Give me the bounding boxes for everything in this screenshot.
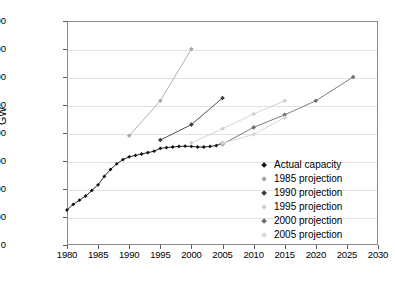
legend-item-3[interactable]: 1990 projection <box>258 186 342 199</box>
y-tick-label: 600 <box>0 72 6 82</box>
gridline <box>68 134 377 135</box>
legend-item-5[interactable]: 2000 projection <box>258 214 342 227</box>
x-tick-mark <box>254 245 255 249</box>
y-tick-mark <box>63 217 67 218</box>
x-tick-mark <box>378 245 379 249</box>
capacity-projection-chart: GW 0100200300400500600700800 19801985199… <box>0 0 395 283</box>
x-tick-mark <box>285 245 286 249</box>
y-tick-mark <box>63 189 67 190</box>
y-tick-mark <box>63 77 67 78</box>
x-tick-mark <box>223 245 224 249</box>
legend-item-label: Actual capacity <box>274 159 341 170</box>
diamond-marker-icon <box>258 158 274 171</box>
diamond-marker-icon <box>258 228 274 241</box>
y-tick-label: 700 <box>0 44 6 54</box>
legend: Actual capacity1985 projection1990 proje… <box>258 158 342 241</box>
gridline <box>68 50 377 51</box>
y-tick-label: 200 <box>0 184 6 194</box>
y-tick-label: 400 <box>0 128 6 138</box>
x-tick-mark <box>67 245 68 249</box>
y-tick-label: 800 <box>0 16 6 26</box>
y-tick-mark <box>63 105 67 106</box>
y-tick-mark <box>63 133 67 134</box>
diamond-marker-icon <box>258 200 274 213</box>
gridline <box>68 78 377 79</box>
y-tick-mark <box>63 161 67 162</box>
legend-item-label: 1985 projection <box>274 173 342 184</box>
legend-item-1[interactable]: Actual capacity <box>258 158 342 171</box>
legend-item-label: 2005 projection <box>274 229 342 240</box>
x-tick-mark <box>160 245 161 249</box>
x-tick-mark <box>316 245 317 249</box>
legend-item-label: 1995 projection <box>274 201 342 212</box>
y-tick-mark <box>63 21 67 22</box>
y-tick-label: 0 <box>0 240 6 250</box>
x-tick-mark <box>98 245 99 249</box>
diamond-marker-icon <box>258 186 274 199</box>
diamond-marker-icon <box>258 172 274 185</box>
diamond-marker-icon <box>258 214 274 227</box>
y-tick-label: 300 <box>0 156 6 166</box>
legend-item-label: 2000 projection <box>274 215 342 226</box>
x-tick-mark <box>347 245 348 249</box>
x-tick-mark <box>129 245 130 249</box>
legend-item-label: 1990 projection <box>274 187 342 198</box>
y-tick-label: 500 <box>0 100 6 110</box>
x-tick-mark <box>191 245 192 249</box>
legend-item-6[interactable]: 2005 projection <box>258 228 342 241</box>
legend-item-2[interactable]: 1985 projection <box>258 172 342 185</box>
y-tick-label: 100 <box>0 212 6 222</box>
legend-item-4[interactable]: 1995 projection <box>258 200 342 213</box>
y-tick-mark <box>63 49 67 50</box>
gridline <box>68 106 377 107</box>
x-tick-label: 2030 <box>358 250 395 260</box>
